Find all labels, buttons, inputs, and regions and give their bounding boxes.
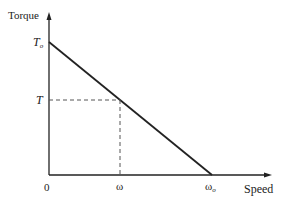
x-tick-omega0-sub: o	[212, 186, 216, 194]
x-tick-origin: 0	[44, 182, 50, 193]
y-tick-t0: To	[33, 36, 43, 50]
y-tick-t0-main: T	[33, 35, 40, 49]
x-axis-arrow-icon	[264, 173, 272, 178]
x-tick-omega0: ωo	[205, 181, 216, 194]
y-tick-t0-sub: o	[40, 42, 44, 50]
y-axis-label: Torque	[8, 10, 39, 21]
torque-speed-chart	[0, 0, 290, 207]
torque-speed-line	[49, 42, 212, 175]
x-axis-label: Speed	[244, 183, 273, 195]
y-tick-t: T	[36, 94, 43, 106]
y-axis-arrow-icon	[47, 12, 52, 20]
x-tick-omega: ω	[116, 181, 123, 192]
